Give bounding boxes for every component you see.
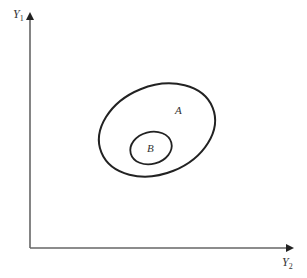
region-b-label: B [147, 142, 154, 154]
region-a-label: A [174, 104, 182, 116]
region-a-ellipse [85, 67, 229, 194]
diagram-canvas: Y1 Y2 A B [0, 0, 307, 278]
y-axis-label: Y1 [13, 7, 24, 23]
x-axis-label: Y2 [282, 255, 293, 271]
